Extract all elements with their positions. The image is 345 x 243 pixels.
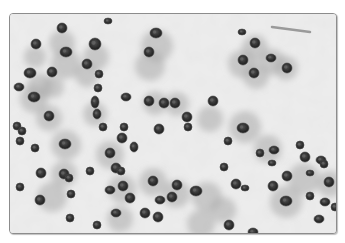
nucleus <box>172 180 182 190</box>
nucleus <box>118 181 128 191</box>
nucleus <box>93 109 101 119</box>
micrograph-frame <box>9 13 337 234</box>
nucleus <box>306 170 314 176</box>
nucleus <box>268 160 276 166</box>
nucleus <box>269 146 279 154</box>
nucleus <box>16 137 24 145</box>
nucleus <box>153 212 163 222</box>
nucleus <box>24 68 36 78</box>
nucleus <box>224 220 234 230</box>
nucleus <box>320 160 328 168</box>
nucleus <box>121 93 131 101</box>
nucleus <box>120 123 128 131</box>
nucleus <box>280 196 292 206</box>
nucleus <box>95 70 103 78</box>
nucleus <box>150 28 162 38</box>
cell-cytoplasm <box>197 106 223 132</box>
nucleus <box>231 179 241 189</box>
nucleus <box>184 123 192 131</box>
cell-cytoplasm <box>24 46 46 68</box>
nucleus <box>296 141 304 149</box>
nucleus <box>314 215 324 223</box>
cell-cytoplasm <box>107 206 133 232</box>
nucleus <box>125 193 135 203</box>
nucleus <box>94 84 102 92</box>
nucleus <box>93 221 101 229</box>
nucleus <box>36 168 46 178</box>
nucleus <box>282 63 292 73</box>
nucleus <box>208 96 218 106</box>
nucleus <box>66 214 74 222</box>
histology-micrograph <box>10 14 336 233</box>
nucleus <box>300 152 310 162</box>
nucleus <box>57 23 67 33</box>
nucleus <box>28 92 40 102</box>
nucleus <box>117 133 127 143</box>
nucleus <box>320 198 330 206</box>
nucleus <box>35 195 45 205</box>
nucleus <box>190 186 202 196</box>
nucleus <box>89 38 101 50</box>
nucleus <box>237 123 249 133</box>
nucleus <box>16 183 24 191</box>
cell-cytoplasm <box>210 197 236 223</box>
nucleus <box>306 192 314 200</box>
micrograph-canvas <box>0 0 345 243</box>
nucleus <box>182 112 192 122</box>
nucleus <box>224 137 232 145</box>
nucleus <box>91 96 99 108</box>
nucleus <box>282 171 292 181</box>
nucleus <box>148 176 158 186</box>
nucleus <box>99 123 107 131</box>
nucleus <box>268 181 278 191</box>
nucleus <box>86 167 94 175</box>
nucleus <box>266 54 276 62</box>
nucleus <box>144 47 154 57</box>
nucleus <box>105 148 115 158</box>
nucleus <box>31 144 39 152</box>
nucleus <box>105 186 115 194</box>
nucleus <box>65 174 73 182</box>
nucleus <box>47 67 57 77</box>
nucleus <box>18 127 26 135</box>
nucleus <box>331 203 336 211</box>
nucleus <box>155 196 165 204</box>
nucleus <box>167 192 177 202</box>
nucleus <box>144 96 154 106</box>
nucleus <box>117 167 125 175</box>
nucleus <box>59 139 71 149</box>
nucleus <box>241 185 249 191</box>
nucleus <box>154 124 164 134</box>
nucleus <box>104 18 112 24</box>
nucleus <box>14 83 24 91</box>
nucleus <box>238 29 246 35</box>
nucleus <box>238 55 248 65</box>
nucleus <box>170 98 180 108</box>
nucleus <box>249 68 259 78</box>
nucleus <box>130 142 138 152</box>
nucleus <box>256 149 264 157</box>
nucleus <box>324 177 334 187</box>
nucleus <box>44 111 54 121</box>
nucleus <box>159 98 169 108</box>
nucleus <box>82 59 92 69</box>
nucleus <box>31 39 41 49</box>
nucleus <box>250 38 260 48</box>
nucleus <box>67 190 75 198</box>
nucleus <box>220 163 228 171</box>
nucleus <box>140 208 150 218</box>
nucleus <box>60 47 72 57</box>
nucleus <box>111 209 121 217</box>
